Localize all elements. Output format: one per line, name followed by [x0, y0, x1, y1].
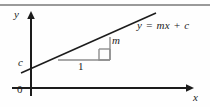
right-angle-marker: [99, 49, 110, 60]
plotted-line: [21, 13, 156, 73]
origin-label: 0: [17, 84, 23, 95]
y-axis-label: y: [14, 9, 19, 20]
gradient-rise-label: m: [112, 35, 120, 46]
line-equation-label: y = mx + c: [137, 20, 189, 31]
x-axis-label: x: [193, 92, 198, 103]
y-intercept-label: c: [18, 57, 23, 68]
gradient-run-label: 1: [78, 61, 84, 72]
line-graph-figure: y x 0 c m 1 y = mx + c: [0, 0, 210, 107]
graph-canvas: [0, 0, 210, 107]
y-axis-arrowhead: [27, 11, 35, 19]
